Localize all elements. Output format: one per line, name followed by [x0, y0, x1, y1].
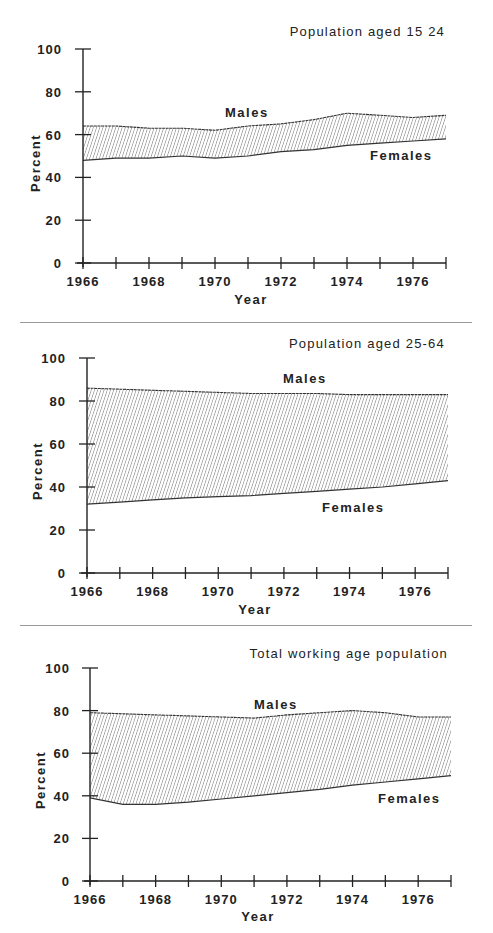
y-axis-label: Percent	[33, 751, 48, 809]
y-tick-label: 0	[62, 874, 70, 889]
x-tick-label: 1972	[270, 892, 303, 907]
chart-title: Total working age population	[250, 646, 448, 661]
x-axis-label: Year	[241, 909, 274, 924]
y-axis: 020406080100	[45, 661, 98, 889]
y-tick-label: 40	[54, 789, 70, 804]
x-tick-label: 1966	[74, 892, 107, 907]
males-series-label: Males	[254, 697, 298, 712]
y-tick-label: 60	[54, 746, 70, 761]
x-tick-label: 1968	[139, 892, 172, 907]
chart-svg: Total working age population 02040608010…	[0, 0, 493, 933]
y-tick-label: 100	[45, 661, 70, 676]
x-tick-label: 1976	[402, 892, 435, 907]
chart-panel-total: Total working age population 02040608010…	[0, 0, 493, 933]
females-series-label: Females	[378, 791, 441, 806]
y-tick-label: 80	[54, 704, 70, 719]
x-tick-label: 1970	[205, 892, 238, 907]
y-tick-label: 20	[54, 831, 70, 846]
x-tick-label: 1974	[336, 892, 369, 907]
x-axis: 196619681970197219741976	[74, 875, 451, 907]
